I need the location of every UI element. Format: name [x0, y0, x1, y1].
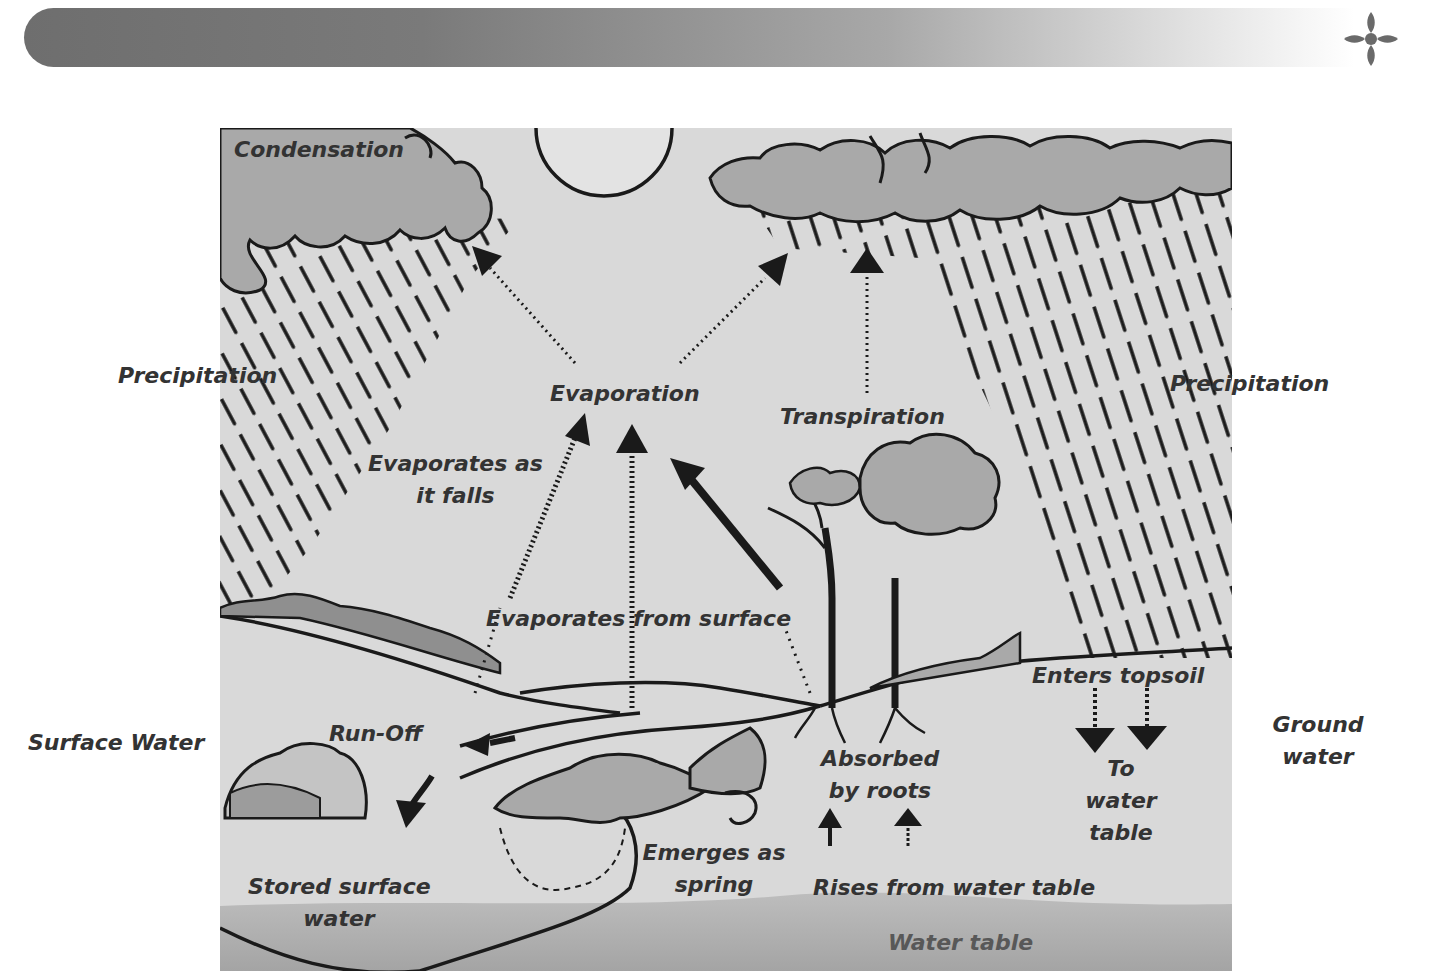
label-rises-from-water-table: Rises from water table — [813, 872, 1095, 904]
sun — [536, 128, 672, 196]
rising-arrows — [818, 808, 922, 846]
label-line: spring — [640, 869, 788, 901]
label-evaporates-as-it-falls: Evaporates as it falls — [368, 448, 543, 512]
label-line: by roots — [818, 775, 942, 807]
label-line: Absorbed — [818, 743, 942, 775]
label-line: To — [1080, 753, 1162, 785]
label-line: Emerges as — [640, 837, 788, 869]
label-emerges-as-spring: Emerges as spring — [640, 837, 788, 901]
label-evaporation: Evaporation — [550, 378, 700, 410]
label-line: it falls — [368, 480, 543, 512]
label-ground-water: Ground water — [1262, 709, 1374, 773]
label-enters-topsoil: Enters topsoil — [1032, 660, 1204, 692]
label-to-water-table: To water table — [1080, 753, 1162, 849]
label-water-table: Water table — [888, 927, 1033, 959]
label-surface-water: Surface Water — [28, 727, 204, 759]
label-line: table — [1080, 817, 1162, 849]
label-line: Evaporates as — [368, 448, 543, 480]
header-bar — [24, 8, 1354, 67]
label-line: water — [248, 903, 430, 935]
label-precipitation-right: Precipitation — [1170, 368, 1329, 400]
four-petal-flower-icon — [1342, 10, 1400, 68]
label-line: Ground — [1262, 709, 1374, 741]
label-run-off: Run-Off — [329, 718, 422, 750]
label-line: water — [1080, 785, 1162, 817]
label-precipitation-left: Precipitation — [118, 360, 277, 392]
label-transpiration: Transpiration — [780, 401, 945, 433]
shrub — [225, 744, 366, 818]
trees — [768, 434, 1020, 743]
label-line: Stored surface — [248, 871, 430, 903]
spring — [690, 728, 765, 823]
label-absorbed-by-roots: Absorbed by roots — [818, 743, 942, 807]
label-condensation: Condensation — [234, 134, 404, 166]
topsoil-arrows — [1075, 688, 1167, 753]
label-evaporates-from-surface: Evaporates from surface — [486, 603, 791, 635]
label-stored-surface-water: Stored surface water — [248, 871, 430, 935]
label-line: water — [1262, 741, 1374, 773]
hill-bushes — [220, 594, 500, 673]
